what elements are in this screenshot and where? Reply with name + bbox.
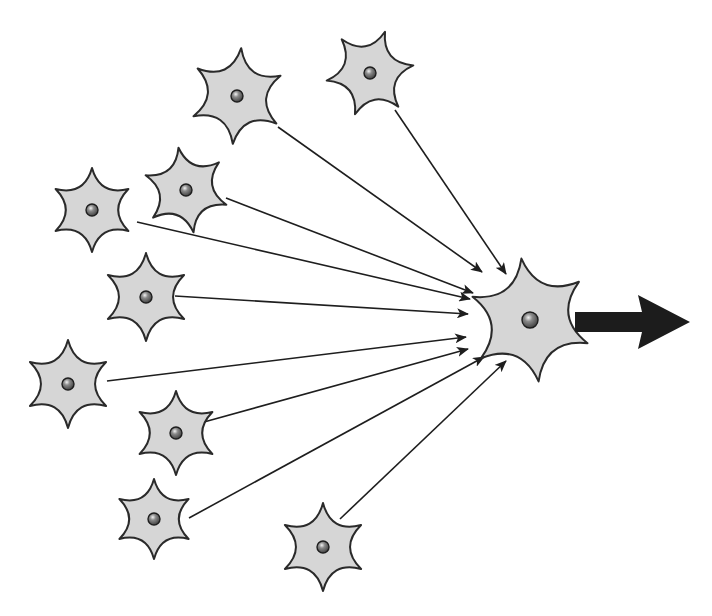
input-neuron-n1 bbox=[194, 48, 281, 144]
nucleus-icon bbox=[170, 427, 182, 439]
input-neuron-n3 bbox=[146, 148, 227, 233]
connection-arrow-n7 bbox=[204, 349, 468, 422]
nucleus-icon bbox=[231, 90, 243, 102]
connection-arrow-n8 bbox=[189, 357, 484, 518]
nucleus-icon bbox=[180, 184, 192, 196]
connection-arrow-n3 bbox=[226, 198, 473, 293]
input-neuron-n6 bbox=[30, 340, 106, 428]
input-neuron-n4 bbox=[56, 168, 129, 252]
nucleus-icon bbox=[62, 378, 74, 390]
connection-arrow-n4 bbox=[137, 222, 470, 299]
input-neuron-n5 bbox=[108, 253, 184, 341]
neuron-convergence-diagram bbox=[0, 0, 712, 616]
output-arrow bbox=[575, 295, 690, 349]
connection-arrow-n5 bbox=[175, 296, 468, 314]
connection-arrow-n9 bbox=[340, 361, 506, 519]
input-neuron-n7 bbox=[140, 391, 213, 475]
nucleus-icon bbox=[317, 541, 329, 553]
connection-arrow-n1 bbox=[278, 127, 482, 272]
output-arrow-icon bbox=[575, 295, 690, 349]
nucleus-icon bbox=[522, 312, 538, 328]
input-neurons-layer bbox=[30, 32, 413, 591]
target-neuron bbox=[473, 259, 588, 382]
target-neuron-body bbox=[473, 259, 588, 382]
input-neuron-n9 bbox=[285, 503, 361, 591]
connection-arrow-n6 bbox=[107, 337, 466, 381]
nucleus-icon bbox=[148, 513, 160, 525]
nucleus-icon bbox=[86, 204, 98, 216]
nucleus-icon bbox=[140, 291, 152, 303]
input-neuron-n2 bbox=[327, 32, 414, 115]
nucleus-icon bbox=[364, 67, 376, 79]
input-neuron-n8 bbox=[119, 479, 188, 559]
